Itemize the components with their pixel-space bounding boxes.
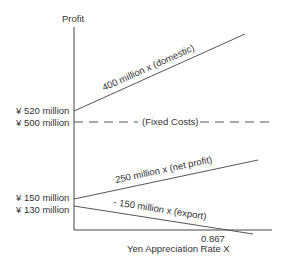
domestic-label: 400 million x (domestic) bbox=[100, 42, 196, 93]
export-label: - 150 million x (export) bbox=[113, 196, 208, 222]
fixed-costs-label: (Fixed Costs) bbox=[142, 116, 198, 127]
x-tick-0867: 0.867 bbox=[201, 233, 225, 244]
profit-diagram: Profit Yen Appreciation Rate X ¥ 520 mil… bbox=[0, 0, 287, 271]
y-axis-label: Profit bbox=[62, 13, 85, 24]
x-axis-label: Yen Appreciation Rate X bbox=[127, 243, 230, 254]
domestic-line bbox=[74, 34, 245, 111]
y-tick-520: ¥ 520 million bbox=[15, 105, 69, 116]
y-tick-130: ¥ 130 million bbox=[15, 204, 69, 215]
y-tick-500: ¥ 500 million bbox=[15, 117, 69, 128]
y-tick-150: ¥ 150 million bbox=[15, 192, 69, 203]
